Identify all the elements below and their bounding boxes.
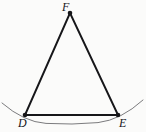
segment-FE [70, 13, 118, 115]
segment-FD [25, 13, 70, 115]
geometry-figure: F D E [0, 0, 146, 132]
vertex-label-E: E [119, 117, 126, 129]
figure-canvas [0, 0, 146, 132]
vertex-label-F: F [62, 1, 69, 13]
vertex-label-D: D [18, 117, 27, 129]
